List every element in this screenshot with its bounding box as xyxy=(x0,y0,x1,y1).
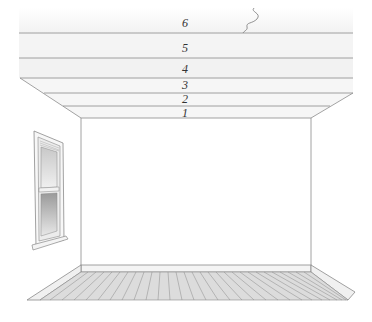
wood-floor xyxy=(40,272,348,300)
ceiling-layers: 6 5 4 3 2 1 xyxy=(19,8,353,120)
layer-label-5: 5 xyxy=(182,41,188,55)
back-baseboard xyxy=(81,265,311,272)
window-lower-glass xyxy=(41,193,57,236)
window-upper-glass xyxy=(41,147,57,188)
layer-label-6: 6 xyxy=(182,16,188,30)
window-meeting-rail xyxy=(39,187,59,192)
window xyxy=(32,131,68,250)
layer-1-band xyxy=(63,106,330,118)
layer-2-band xyxy=(44,93,353,106)
layer-label-2: 2 xyxy=(182,92,188,106)
back-wall xyxy=(81,118,311,272)
layer-label-3: 3 xyxy=(181,78,188,92)
layer-label-4: 4 xyxy=(182,62,188,76)
room-illustration: 6 5 4 3 2 1 xyxy=(0,0,372,322)
